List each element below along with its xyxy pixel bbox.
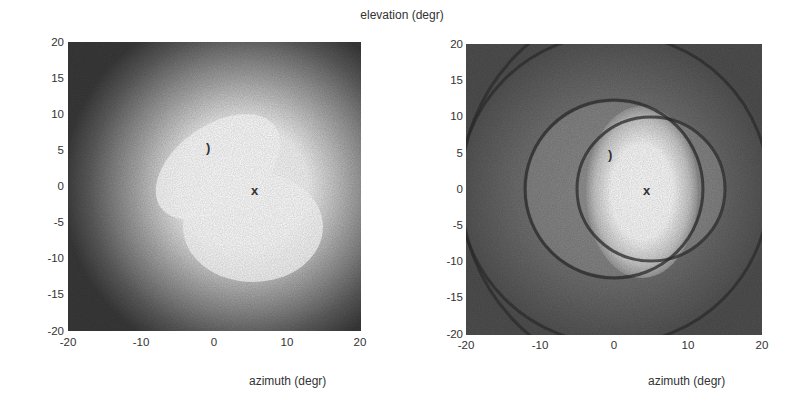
y-tick: 15 [34, 73, 64, 85]
x-tick: 20 [747, 340, 777, 352]
y-tick: -5 [433, 220, 463, 232]
x-tick: -10 [525, 340, 555, 352]
y-tick: -5 [34, 217, 64, 229]
x-tick: 0 [199, 337, 229, 349]
y-tick: 20 [34, 37, 64, 49]
y-tick: 15 [433, 75, 463, 87]
y-tick: 0 [34, 181, 64, 193]
x-tick: 20 [345, 337, 375, 349]
x-tick: 0 [599, 340, 629, 352]
y-tick: 10 [34, 109, 64, 121]
y-tick: -10 [34, 253, 64, 265]
y-tick: 20 [433, 39, 463, 51]
figure-title: elevation (degr) [0, 8, 804, 22]
x-tick: -10 [126, 337, 156, 349]
y-tick: 5 [433, 148, 463, 160]
left-heatmap [68, 42, 361, 331]
x-tick: 10 [272, 337, 302, 349]
x-tick: -20 [451, 340, 481, 352]
y-tick: -10 [433, 256, 463, 268]
x-tick: 10 [673, 340, 703, 352]
x-axis-label: azimuth (degr) [249, 374, 326, 388]
x-marker: x [251, 184, 258, 197]
x-marker: x [643, 184, 650, 197]
y-tick: 5 [34, 145, 64, 157]
moon-marker: ) [206, 141, 210, 154]
y-tick: 0 [433, 184, 463, 196]
moon-marker: ) [608, 148, 612, 161]
x-tick: -20 [53, 337, 83, 349]
right-heatmap [466, 44, 762, 335]
y-tick: -15 [433, 292, 463, 304]
x-axis-label: azimuth (degr) [648, 374, 725, 388]
y-tick: -15 [34, 289, 64, 301]
y-tick: 10 [433, 111, 463, 123]
